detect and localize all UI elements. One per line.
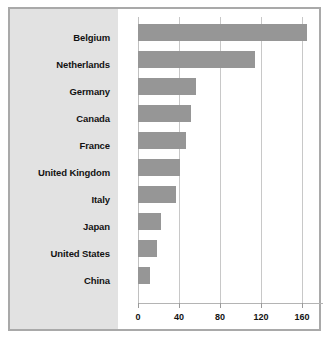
category-label: United States [10,248,110,259]
x-tick-160 [302,303,303,308]
plot-area: 0 40 80 120 160 [118,9,319,329]
x-tick-40 [179,303,180,308]
x-tick-label-0: 0 [135,312,140,322]
bar-china [138,267,150,284]
x-tick-label-160: 160 [294,312,309,322]
bar-france [138,132,186,149]
bar-belgium [138,24,307,41]
category-label: Canada [10,113,110,124]
x-tick-label-120: 120 [253,312,268,322]
x-tick-0 [138,303,139,308]
bar-italy [138,186,176,203]
x-tick-label-40: 40 [174,312,184,322]
bar-chart-figure: Belgium Netherlands Germany Canada Franc… [0,0,331,340]
category-label: China [10,275,110,286]
x-axis-line [138,303,323,304]
category-label: Italy [10,194,110,205]
category-label: Japan [10,221,110,232]
x-tick-label-80: 80 [215,312,225,322]
category-label: Germany [10,86,110,97]
gridline-160 [302,17,303,303]
bar-united-kingdom [138,159,180,176]
bar-germany [138,78,196,95]
bar-canada [138,105,191,122]
category-label: Belgium [10,32,110,43]
gridline-120 [261,17,262,303]
category-label: France [10,140,110,151]
bar-netherlands [138,51,255,68]
chart-frame: Belgium Netherlands Germany Canada Franc… [8,7,321,331]
category-label: Netherlands [10,59,110,70]
bar-japan [138,213,161,230]
category-label: United Kingdom [10,167,110,178]
category-label-panel: Belgium Netherlands Germany Canada Franc… [10,9,118,329]
x-tick-80 [220,303,221,308]
bar-united-states [138,240,157,257]
x-tick-120 [261,303,262,308]
